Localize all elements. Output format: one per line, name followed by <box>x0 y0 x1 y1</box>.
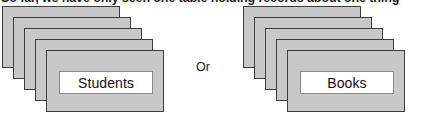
caption-text: So far, we have only seen one table hold… <box>1 0 399 5</box>
books-label-text: Books <box>327 76 366 90</box>
books-label-box: Books <box>300 71 394 94</box>
stack-card-front: Books <box>287 50 405 112</box>
diagram-canvas: So far, we have only seen one table hold… <box>0 0 427 127</box>
or-connector-label: Or <box>196 60 210 74</box>
stack-card-front: Students <box>46 50 164 112</box>
students-label-text: Students <box>78 76 134 90</box>
students-label-box: Students <box>59 71 153 94</box>
